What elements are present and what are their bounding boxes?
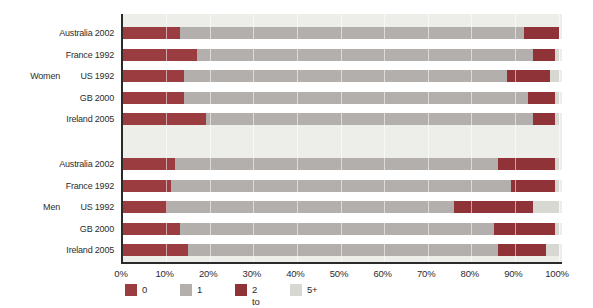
bar-segment xyxy=(188,244,498,256)
bar-segment xyxy=(123,158,175,170)
bar-segment xyxy=(123,92,184,104)
bar-segment xyxy=(123,223,180,235)
grid-line xyxy=(297,14,298,262)
legend-label: 1 xyxy=(197,284,202,296)
legend-label: 2 to 4 xyxy=(252,284,260,296)
bar-gap xyxy=(123,170,562,180)
bar-segment xyxy=(180,27,524,39)
bar-segment xyxy=(197,49,533,61)
bar-segment xyxy=(175,158,498,170)
x-axis-tick-label: 80% xyxy=(461,268,479,280)
bar-gap xyxy=(123,235,562,245)
grid-line xyxy=(428,14,429,262)
x-axis-tick-label: 10% xyxy=(155,268,173,280)
grid-line xyxy=(253,14,254,262)
x-axis-tick-label: 100% xyxy=(545,268,569,280)
legend: 012 to 45+ xyxy=(0,284,593,298)
legend-swatch xyxy=(180,284,192,296)
bar-segment xyxy=(123,180,171,192)
bar-segment xyxy=(123,70,184,82)
x-axis-tick-label: 70% xyxy=(417,268,435,280)
row-label: France 1992 xyxy=(0,180,114,192)
bar-gap xyxy=(123,61,562,71)
bar-gap xyxy=(123,82,562,92)
grid-line xyxy=(471,14,472,262)
x-axis-tick-label: 30% xyxy=(243,268,261,280)
bar-gap xyxy=(123,104,562,114)
bar-segment xyxy=(123,49,197,61)
grid-line xyxy=(210,14,211,262)
x-axis-tick-label: 90% xyxy=(504,268,522,280)
legend-label: 0 xyxy=(142,284,147,296)
legend-label: 5+ xyxy=(307,284,317,296)
legend-swatch xyxy=(235,284,247,296)
legend-swatch xyxy=(125,284,137,296)
bar-segment xyxy=(123,113,206,125)
plot-area xyxy=(121,14,562,264)
bar-gap xyxy=(123,39,562,49)
grid-line xyxy=(166,14,167,262)
bar-segment xyxy=(546,244,559,256)
x-axis-tick-label: 0% xyxy=(114,268,127,280)
bar-segment xyxy=(533,201,559,213)
row-label: GB 2000 xyxy=(0,223,114,235)
grid-line xyxy=(515,14,516,262)
bar-segment xyxy=(123,201,167,213)
bar-segment xyxy=(511,180,555,192)
group-label: Men xyxy=(0,201,60,213)
row-label: Australia 2002 xyxy=(0,158,114,170)
bar-segment xyxy=(533,49,555,61)
grid-line xyxy=(341,14,342,262)
bar-segment xyxy=(454,201,532,213)
x-axis-tick-label: 40% xyxy=(286,268,304,280)
bar-segment xyxy=(123,244,188,256)
bar-segment xyxy=(498,158,555,170)
row-label: GB 2000 xyxy=(0,92,114,104)
bar-segment xyxy=(180,223,494,235)
bar-gap xyxy=(123,192,562,202)
bar-segment xyxy=(498,244,546,256)
row-label: Australia 2002 xyxy=(0,27,114,39)
x-axis-tick-label: 50% xyxy=(330,268,348,280)
bar-gap xyxy=(123,213,562,223)
row-label: France 1992 xyxy=(0,49,114,61)
row-label: Ireland 2005 xyxy=(0,113,114,125)
bar-segment xyxy=(533,113,555,125)
bar-segment xyxy=(528,92,554,104)
grid-line xyxy=(384,14,385,262)
bar-segment xyxy=(184,92,528,104)
stacked-bar-chart: 012 to 45+ Australia 2002France 1992US 1… xyxy=(0,0,593,308)
grid-line xyxy=(559,14,560,262)
row-label: Ireland 2005 xyxy=(0,244,114,256)
bar-segment xyxy=(123,27,180,39)
bar-segment xyxy=(494,223,555,235)
bar-segment xyxy=(507,70,551,82)
bar-segment xyxy=(206,113,533,125)
bar-segment xyxy=(524,27,559,39)
x-axis-tick-label: 60% xyxy=(373,268,391,280)
group-label: Women xyxy=(0,70,60,82)
legend-swatch xyxy=(290,284,302,296)
x-axis-tick-label: 20% xyxy=(199,268,217,280)
bar-segment xyxy=(184,70,507,82)
